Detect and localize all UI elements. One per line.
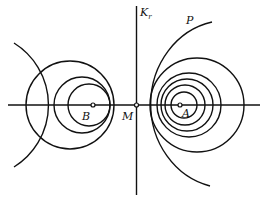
curve-p-label: P: [185, 14, 194, 27]
point-b-marker: [91, 103, 95, 107]
point-a-label: A: [181, 107, 190, 120]
point-b-label: B: [81, 110, 90, 123]
equipotential-diagram: Kr P B M A: [0, 0, 266, 202]
axis-k-label: Kr: [139, 6, 152, 21]
point-m-marker: [135, 103, 139, 107]
point-m-label: M: [121, 110, 134, 123]
